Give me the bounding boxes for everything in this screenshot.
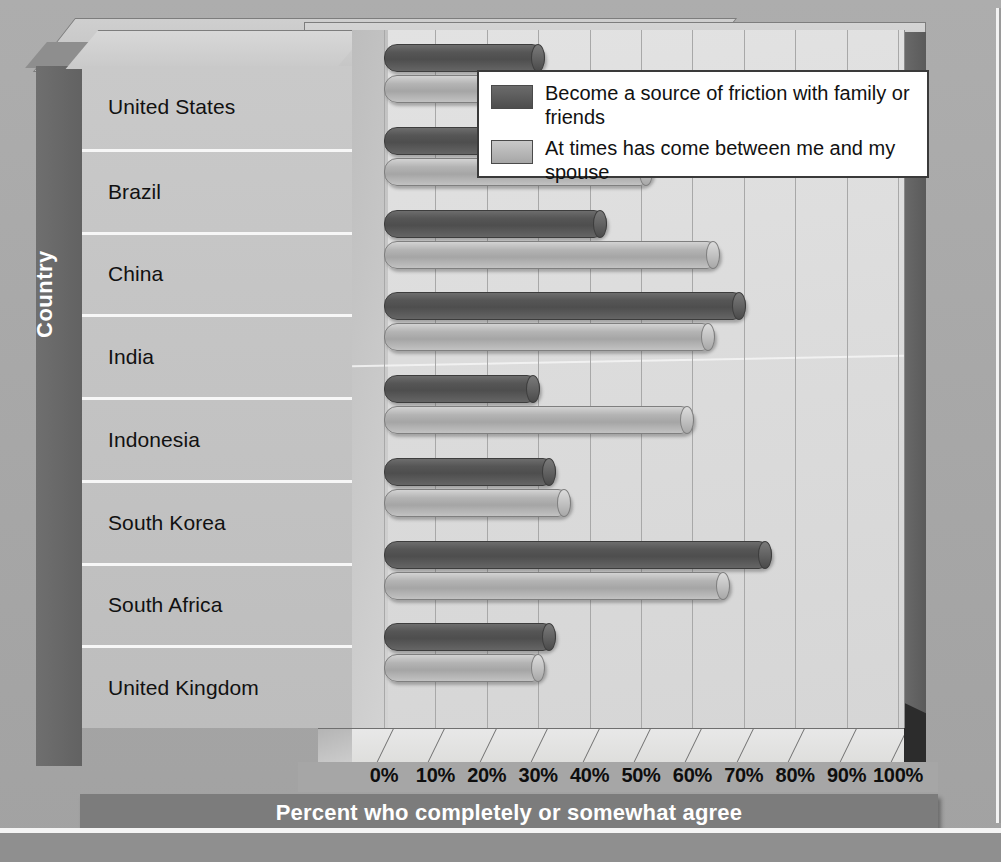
bar-friction bbox=[384, 210, 607, 238]
floor-gridline bbox=[629, 728, 653, 764]
legend-item: Become a source of friction with family … bbox=[491, 82, 915, 129]
floor-gridline bbox=[835, 728, 859, 764]
floor-left-corner bbox=[318, 728, 354, 763]
bar-spouse bbox=[384, 654, 545, 682]
x-tick-label: 0% bbox=[370, 764, 398, 787]
x-tick-label: 70% bbox=[724, 764, 763, 787]
category-panel: United StatesBrazilChinaIndiaIndonesiaSo… bbox=[82, 66, 354, 728]
bar-friction bbox=[384, 541, 772, 569]
category-row: Brazil bbox=[82, 149, 352, 232]
chart-3d-container: Country United StatesBrazilChinaIndiaInd… bbox=[18, 8, 938, 820]
floor-gridline bbox=[475, 728, 499, 764]
x-tick-label: 60% bbox=[673, 764, 712, 787]
category-label: South Africa bbox=[108, 593, 222, 617]
category-row: United States bbox=[82, 66, 352, 149]
category-row: Indonesia bbox=[82, 397, 352, 480]
floor-gridline bbox=[886, 728, 904, 764]
bar-end-cap bbox=[542, 623, 556, 651]
x-tick-label: 50% bbox=[621, 764, 660, 787]
bar-group bbox=[352, 609, 904, 692]
x-tick-label: 90% bbox=[827, 764, 866, 787]
bar-friction bbox=[384, 623, 556, 651]
legend-item: At times has come between me and my spou… bbox=[491, 137, 915, 184]
bar-spouse bbox=[384, 241, 720, 269]
x-tick-label: 100% bbox=[873, 764, 923, 787]
x-axis-tick-labels: 0%10%20%30%40%50%60%70%80%90%100% bbox=[298, 762, 938, 792]
category-row: India bbox=[82, 314, 352, 397]
bar-group bbox=[352, 361, 904, 444]
x-axis-floor bbox=[352, 728, 904, 764]
y-axis-title: Country bbox=[32, 250, 58, 338]
bar-end-cap bbox=[526, 375, 540, 403]
category-row: China bbox=[82, 232, 352, 315]
bar-end-cap bbox=[531, 654, 545, 682]
floor-gridline bbox=[732, 728, 756, 764]
bar-end-cap bbox=[758, 541, 772, 569]
category-panel-bevel bbox=[66, 30, 369, 69]
x-axis-title-bar: Percent who completely or somewhat agree bbox=[80, 794, 938, 832]
bar-friction bbox=[384, 292, 746, 320]
page-root: Country United StatesBrazilChinaIndiaInd… bbox=[0, 0, 1001, 862]
x-tick-label: 10% bbox=[416, 764, 455, 787]
chart-legend: Become a source of friction with family … bbox=[477, 70, 929, 178]
bar-end-cap bbox=[706, 241, 720, 269]
legend-label: Become a source of friction with family … bbox=[545, 82, 915, 129]
bar-end-cap bbox=[716, 572, 730, 600]
floor-gridline bbox=[783, 728, 807, 764]
floor-gridline bbox=[681, 728, 705, 764]
bar-friction bbox=[384, 375, 540, 403]
bar-end-cap bbox=[557, 489, 571, 517]
x-tick-label: 20% bbox=[467, 764, 506, 787]
category-label: South Korea bbox=[108, 511, 226, 535]
bar-spouse bbox=[384, 323, 715, 351]
floor-gridline bbox=[424, 728, 448, 764]
x-tick-label: 40% bbox=[570, 764, 609, 787]
bar-spouse bbox=[384, 489, 571, 517]
x-tick-label: 80% bbox=[776, 764, 815, 787]
bar-group bbox=[352, 278, 904, 361]
bar-end-cap bbox=[593, 210, 607, 238]
category-label: India bbox=[108, 345, 154, 369]
bar-spouse bbox=[384, 572, 730, 600]
category-label: United States bbox=[108, 95, 235, 119]
bar-group bbox=[352, 196, 904, 279]
floor-gridline bbox=[578, 728, 602, 764]
x-axis-title: Percent who completely or somewhat agree bbox=[276, 800, 742, 826]
bar-spouse bbox=[384, 406, 694, 434]
category-label: China bbox=[108, 262, 163, 286]
floor-gridline bbox=[372, 728, 396, 764]
category-row: South Africa bbox=[82, 563, 352, 646]
bar-end-cap bbox=[542, 458, 556, 486]
category-label: Indonesia bbox=[108, 428, 200, 452]
bar-group bbox=[352, 444, 904, 527]
bottom-frame-band bbox=[0, 833, 1001, 862]
legend-swatch-light-icon bbox=[491, 140, 533, 164]
bar-group bbox=[352, 527, 904, 610]
category-row: South Korea bbox=[82, 480, 352, 563]
floor-gridline bbox=[526, 728, 550, 764]
bar-end-cap bbox=[680, 406, 694, 434]
bar-friction bbox=[384, 44, 545, 72]
legend-swatch-dark-icon bbox=[491, 85, 533, 109]
right-frame-rule bbox=[996, 8, 999, 823]
category-label: United Kingdom bbox=[108, 676, 259, 700]
category-row: United Kingdom bbox=[82, 645, 352, 728]
legend-label: At times has come between me and my spou… bbox=[545, 137, 915, 184]
bar-end-cap bbox=[531, 44, 545, 72]
y-axis-wall bbox=[36, 66, 82, 766]
category-label: Brazil bbox=[108, 180, 161, 204]
bar-end-cap bbox=[701, 323, 715, 351]
x-tick-label: 30% bbox=[519, 764, 558, 787]
bar-friction bbox=[384, 458, 556, 486]
bar-end-cap bbox=[732, 292, 746, 320]
